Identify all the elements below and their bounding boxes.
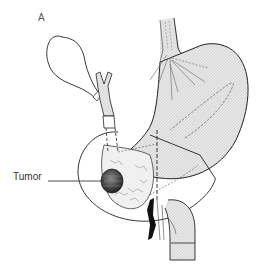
bile-duct (96, 72, 114, 116)
stomach-resection-illustration (0, 0, 270, 270)
anatomical-diagram: A Tumor (0, 0, 270, 270)
gallbladder (47, 36, 98, 98)
duodenum (165, 200, 195, 260)
tumor-label: Tumor (13, 171, 42, 182)
vessel (147, 198, 156, 240)
panel-label: A (38, 12, 45, 23)
